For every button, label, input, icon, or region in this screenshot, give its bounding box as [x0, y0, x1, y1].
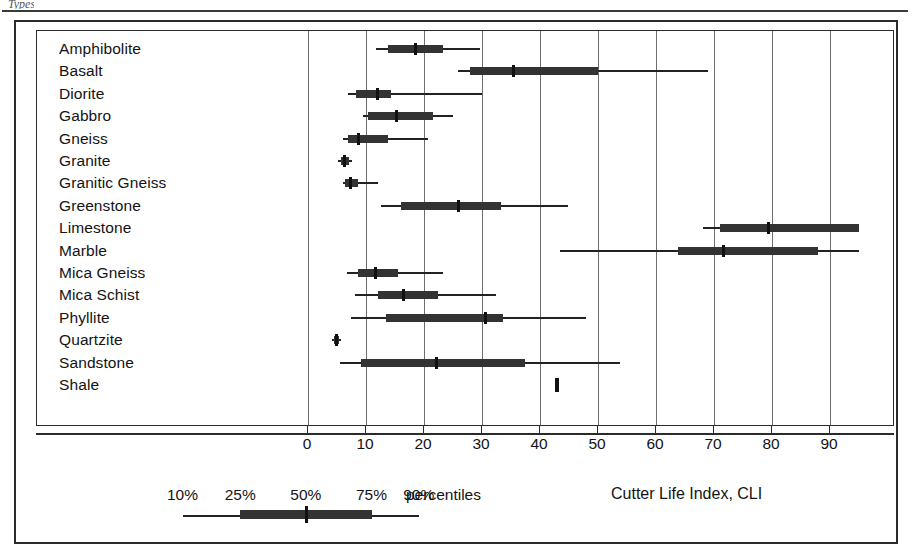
interquartile-box: [678, 247, 818, 255]
row-label: Diorite: [59, 84, 105, 104]
boxplot-row[interactable]: Limestone: [37, 217, 893, 239]
interquartile-box: [368, 112, 434, 120]
row-label: Shale: [59, 375, 99, 395]
legend-label-25pct: 25%: [225, 486, 256, 504]
boxplot-row[interactable]: Marble: [37, 240, 893, 262]
interquartile-box: [348, 135, 388, 143]
x-tick-80: [771, 426, 772, 434]
legend-label-75pct: 75%: [356, 486, 387, 504]
legend-percentiles-word: percentiles: [406, 486, 481, 504]
boxplot-row[interactable]: Basalt: [37, 60, 893, 82]
legend: 10%25%50%75%90% percentiles Cutter Life …: [36, 462, 894, 538]
single-value-marker: [555, 378, 559, 392]
median-tick: [435, 357, 438, 369]
interquartile-box: [358, 269, 398, 277]
row-label: Mica Gneiss: [59, 263, 145, 283]
median-tick: [484, 312, 487, 324]
x-tick-label: 70: [704, 435, 721, 453]
row-label: Quartzite: [59, 330, 123, 350]
boxplot-row[interactable]: Gneiss: [37, 128, 893, 150]
page-text-fragment: Types: [8, 0, 34, 9]
boxplot-row[interactable]: Quartzite: [37, 329, 893, 351]
median-tick: [767, 222, 770, 234]
x-tick-0: [307, 426, 308, 434]
median-tick: [343, 155, 346, 167]
median-tick: [395, 110, 398, 122]
x-axis-title: Cutter Life Index, CLI: [611, 484, 762, 504]
boxplot-row[interactable]: Phyllite: [37, 307, 893, 329]
median-tick: [335, 334, 338, 346]
page-horizontal-rule: [2, 10, 908, 12]
median-tick: [512, 65, 515, 77]
median-tick: [414, 43, 417, 55]
median-tick: [374, 267, 377, 279]
row-label: Granite: [59, 151, 111, 171]
boxplot-row[interactable]: Greenstone: [37, 195, 893, 217]
boxplot-row[interactable]: Sandstone: [37, 352, 893, 374]
boxplot-row[interactable]: Mica Schist: [37, 284, 893, 306]
figure-frame: AmphiboliteBasaltDioriteGabbroGneissGran…: [14, 20, 898, 544]
legend-label-50pct: 50%: [290, 486, 321, 504]
x-tick-label: 20: [414, 435, 431, 453]
boxplot-row[interactable]: Granite: [37, 150, 893, 172]
x-tick-60: [655, 426, 656, 434]
x-tick-20: [423, 426, 424, 434]
x-tick-label: 10: [356, 435, 373, 453]
x-tick-label: 90: [820, 435, 837, 453]
median-tick: [457, 200, 460, 212]
row-label: Basalt: [59, 61, 103, 81]
interquartile-box: [720, 224, 859, 232]
interquartile-box: [401, 202, 501, 210]
interquartile-box: [470, 67, 598, 75]
legend-median-tick: [305, 506, 308, 523]
x-tick-90: [829, 426, 830, 434]
x-tick-30: [481, 426, 482, 434]
boxplot-row[interactable]: Granitic Gneiss: [37, 172, 893, 194]
x-tick-label: 0: [303, 435, 312, 453]
plot-area: AmphiboliteBasaltDioriteGabbroGneissGran…: [36, 30, 894, 426]
legend-label-10pct: 10%: [167, 486, 198, 504]
median-tick: [349, 177, 352, 189]
x-axis: 0102030405060708090: [36, 426, 894, 460]
row-label: Greenstone: [59, 196, 141, 216]
interquartile-box: [356, 90, 391, 98]
row-label: Gabbro: [59, 106, 111, 126]
x-tick-label: 50: [588, 435, 605, 453]
boxplot-row[interactable]: Shale: [37, 374, 893, 396]
x-tick-label: 60: [646, 435, 663, 453]
x-tick-40: [539, 426, 540, 434]
x-tick-70: [713, 426, 714, 434]
x-tick-label: 30: [472, 435, 489, 453]
x-tick-label: 40: [530, 435, 547, 453]
median-tick: [376, 88, 379, 100]
x-tick-50: [597, 426, 598, 434]
row-label: Granitic Gneiss: [59, 173, 166, 193]
row-label: Marble: [59, 241, 107, 261]
row-label: Phyllite: [59, 308, 110, 328]
row-label: Mica Schist: [59, 285, 139, 305]
row-label: Sandstone: [59, 353, 134, 373]
x-tick-label: 80: [762, 435, 779, 453]
row-label: Limestone: [59, 218, 131, 238]
boxplot-row[interactable]: Diorite: [37, 83, 893, 105]
boxplot-row[interactable]: Gabbro: [37, 105, 893, 127]
interquartile-box: [378, 291, 438, 299]
interquartile-box: [361, 359, 525, 367]
row-label: Gneiss: [59, 129, 108, 149]
boxplot-row[interactable]: Mica Gneiss: [37, 262, 893, 284]
median-tick: [402, 289, 405, 301]
x-tick-10: [365, 426, 366, 434]
median-tick: [722, 245, 725, 257]
row-label: Amphibolite: [59, 39, 141, 59]
median-tick: [357, 133, 360, 145]
boxplot-row[interactable]: Amphibolite: [37, 38, 893, 60]
